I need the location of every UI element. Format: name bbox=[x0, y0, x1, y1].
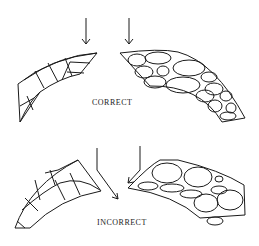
correct-arrows bbox=[82, 18, 133, 44]
incorrect-label: INCORRECT bbox=[97, 218, 147, 227]
incorrect-arrows bbox=[97, 146, 140, 199]
correct-label: CORRECT bbox=[92, 98, 132, 107]
incorrect-cut-block-segment bbox=[15, 160, 101, 228]
diagram-canvas: CORRECT INCORRECT bbox=[0, 0, 259, 246]
correct-rubble-segment bbox=[120, 50, 245, 122]
correct-cut-block-segment bbox=[18, 53, 97, 122]
diagram-drawing bbox=[0, 0, 259, 246]
incorrect-rubble-segment bbox=[128, 160, 245, 225]
